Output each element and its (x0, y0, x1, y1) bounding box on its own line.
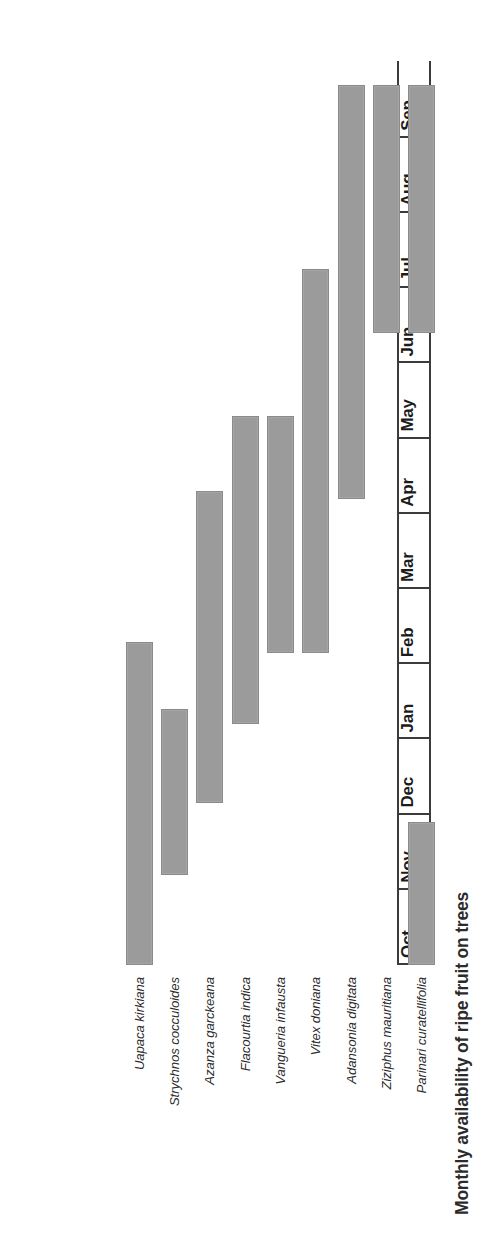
species-label: Vangueria infausta (273, 977, 288, 1085)
species-labels: Uapaca kirkianaStrychnos cocculoidesAzan… (0, 0, 500, 1233)
chart-figure: Monthly availability of ripe fruit on tr… (0, 0, 500, 1233)
species-label: Flacourtia indica (238, 977, 253, 1071)
rotated-figure-stage: Monthly availability of ripe fruit on tr… (0, 0, 500, 1233)
species-label: Vitex doniana (308, 977, 323, 1055)
species-label: Strychnos cocculoides (167, 977, 182, 1106)
species-label: Azanza garckeana (202, 977, 217, 1085)
species-label: Parinari curatellifolia (414, 977, 429, 1093)
species-label: Ziziphus mauritiana (379, 977, 394, 1089)
species-label: Adansonia digitata (344, 977, 359, 1084)
species-label: Uapaca kirkiana (132, 977, 147, 1070)
